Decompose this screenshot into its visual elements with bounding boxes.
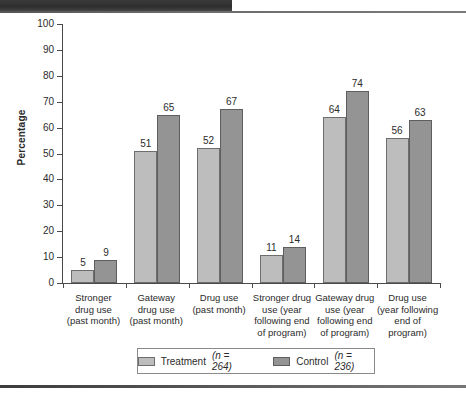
legend-label-control: Control [296, 356, 328, 367]
bar-control-3 [283, 247, 306, 283]
bar-treatment-3 [260, 255, 283, 283]
y-tick-mark-50 [57, 154, 62, 155]
bar-treatment-5 [386, 138, 409, 283]
x-tick-mark [252, 283, 253, 288]
x-axis-label-2: Drug use(past month) [184, 292, 255, 315]
y-tick-mark-90 [57, 50, 62, 51]
x-axis-label-0: Strongerdrug use(past month) [58, 292, 129, 327]
y-tick-mark-40 [57, 179, 62, 180]
y-tick-mark-20 [57, 231, 62, 232]
bar-group: 6474 [314, 24, 377, 283]
bar-value-label: 63 [400, 107, 440, 118]
x-axis-labels: Strongerdrug use(past month)Gatewaydrug … [62, 292, 442, 350]
y-tick-label-30: 30 [24, 200, 54, 210]
bar-group: 5165 [126, 24, 189, 283]
y-tick-label-40: 40 [24, 174, 54, 184]
x-tick-mark [126, 283, 127, 288]
bar-treatment-1 [134, 151, 157, 283]
legend-n-treatment: (n = 264) [212, 350, 252, 372]
bar-treatment-2 [197, 148, 220, 283]
bar-treatment-4 [323, 117, 346, 283]
bar-chart: Percentage 0102030405060708090100 595165… [0, 14, 466, 384]
bar-group: 1114 [252, 24, 315, 283]
y-tick-label-90: 90 [24, 45, 54, 55]
bar-group: 5663 [377, 24, 440, 283]
y-tick-mark-30 [57, 205, 62, 206]
bar-value-label: 65 [149, 102, 189, 113]
page-rule-bottom [0, 385, 466, 388]
y-tick-label-60: 60 [24, 123, 54, 133]
y-tick-mark-80 [57, 76, 62, 77]
chart-legend: Treatment (n = 264) Control (n = 236) [137, 348, 375, 374]
y-tick-label-20: 20 [24, 226, 54, 236]
bar-value-label: 14 [274, 234, 314, 245]
plot-area: 0102030405060708090100 59516552671114647… [62, 24, 440, 283]
legend-swatch-treatment [138, 357, 155, 366]
x-axis-label-5: Drug use(year followingend ofprogram) [372, 292, 443, 338]
y-tick-label-50: 50 [24, 149, 54, 159]
bar-group: 5267 [189, 24, 252, 283]
bar-group: 59 [63, 24, 126, 283]
legend-n-control: (n = 236) [334, 350, 374, 372]
legend-item-treatment: Treatment (n = 264) [138, 350, 251, 372]
y-tick-label-10: 10 [24, 252, 54, 262]
bar-control-2 [220, 109, 243, 283]
bar-value-label: 74 [337, 78, 377, 89]
y-tick-mark-70 [57, 102, 62, 103]
x-axis-label-1: Gatewaydrug use(past month) [121, 292, 192, 327]
bar-control-1 [157, 115, 180, 283]
y-tick-mark-60 [57, 128, 62, 129]
bar-control-0 [94, 260, 117, 283]
legend-label-treatment: Treatment [161, 356, 206, 367]
y-tick-label-100: 100 [24, 19, 54, 29]
x-axis-label-3: Stronger druguse (yearfollowing endof pr… [247, 292, 318, 338]
y-tick-mark-10 [57, 257, 62, 258]
bar-value-label: 67 [212, 96, 252, 107]
x-tick-mark [189, 283, 190, 288]
y-tick-label-80: 80 [24, 71, 54, 81]
y-tick-mark-100 [57, 24, 62, 25]
page-rule-top [0, 11, 466, 13]
x-tick-mark [314, 283, 315, 288]
bar-series-container: 5951655267111464745663 [63, 24, 440, 283]
y-tick-label-0: 0 [24, 278, 54, 288]
x-tick-mark-end [63, 283, 64, 288]
x-tick-mark-end [440, 283, 441, 288]
bar-control-4 [346, 91, 369, 283]
bar-control-5 [409, 120, 432, 283]
bar-treatment-0 [71, 270, 94, 283]
x-tick-mark [377, 283, 378, 288]
y-tick-label-70: 70 [24, 97, 54, 107]
bar-value-label: 9 [86, 247, 126, 258]
legend-item-control: Control (n = 236) [273, 350, 374, 372]
x-axis-label-4: Gateway druguse (yearfollowing endof pro… [309, 292, 380, 338]
legend-swatch-control [273, 357, 290, 366]
y-tick-mark-0 [57, 283, 62, 284]
